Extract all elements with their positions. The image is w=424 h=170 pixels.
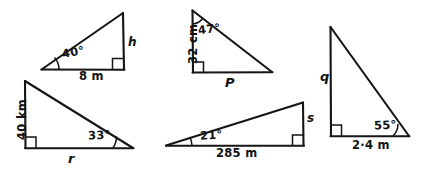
triangle-4-angle-label: 21°: [200, 129, 223, 142]
triangle-5-shape: [331, 27, 410, 136]
triangle-5-base-label: 2·4 m: [352, 140, 390, 152]
triangle-1-shape: [42, 13, 125, 70]
triangle-1-vertical-side: [123, 13, 124, 70]
triangle-2-hypotenuse: [193, 11, 273, 73]
triangle-1-base-label: 8 m: [79, 71, 104, 83]
triangle-4-vertical-side: [303, 103, 304, 146]
triangle-3-angle-arc: [113, 137, 117, 149]
triangle-2-shape: [193, 11, 273, 73]
triangle-5-right-angle-marker: [331, 125, 342, 136]
triangle-4-base-label: 285 m: [216, 148, 258, 160]
triangle-2-angle-label: 47°: [197, 23, 221, 37]
triangle-4-right-angle-marker: [293, 135, 304, 145]
triangle-2-base-label: P: [225, 76, 235, 89]
triangle-5-vertical-label: q: [320, 70, 330, 83]
triangle-1-right-angle-marker: [113, 59, 124, 70]
triangle-2-vertical-label: 32 cm: [188, 24, 200, 64]
worksheet-canvas: 40° 8 m h 47° 32 cm P 40 km 33° r 21° 28…: [0, 0, 424, 170]
triangle-1-angle-arc: [55, 58, 60, 70]
triangle-3-angle-label: 33°: [88, 129, 111, 142]
triangle-1-hypotenuse: [42, 13, 124, 70]
triangle-5-angle-label: 55°: [374, 119, 397, 132]
triangle-1-vertical-label: h: [128, 36, 137, 48]
triangle-5-vertical-side: [331, 27, 332, 136]
triangle-3-base-label: r: [68, 152, 75, 165]
triangle-3-shape: [25, 81, 134, 148]
triangle-4-hypotenuse: [166, 103, 303, 146]
triangle-4-shape: [166, 103, 304, 146]
triangle-4-vertical-label: s: [307, 112, 314, 124]
triangle-3-vertical-label: 40 km: [17, 99, 29, 140]
triangle-5-hypotenuse: [331, 27, 410, 136]
